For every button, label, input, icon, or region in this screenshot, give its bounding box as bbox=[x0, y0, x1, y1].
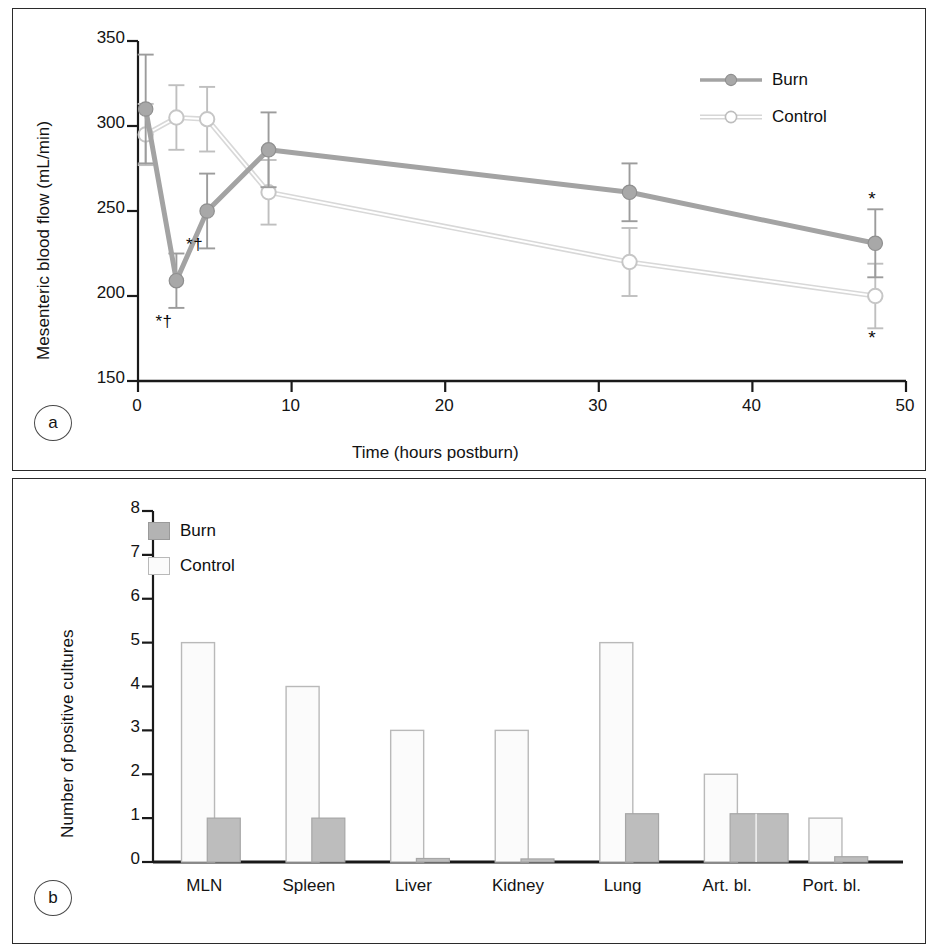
data-point-burn bbox=[261, 143, 275, 157]
panel-b-y-tick-1: 1 bbox=[98, 805, 140, 825]
data-point-control bbox=[868, 289, 882, 303]
figure-container: Mesenteric blood flow (mL/min) Time (hou… bbox=[0, 0, 938, 952]
panel-b-y-axis-title: Number of positive cultures bbox=[58, 629, 78, 838]
bar-burn-spleen bbox=[312, 818, 345, 862]
data-point-burn bbox=[200, 204, 214, 218]
data-point-burn bbox=[169, 274, 183, 288]
bar-burn-lung bbox=[626, 814, 659, 862]
legend-label-burn-bar: Burn bbox=[180, 521, 216, 541]
control-swatch-icon bbox=[148, 557, 170, 575]
burn-line-marker-icon bbox=[700, 72, 762, 88]
panel-a-y-tick-300: 300 bbox=[51, 113, 125, 133]
significance-marker-2: * bbox=[868, 188, 875, 210]
panel-a-x-tick-20: 20 bbox=[414, 396, 474, 416]
panel-b-y-tick-0: 0 bbox=[98, 849, 140, 869]
bar-burn-portbl bbox=[835, 857, 868, 862]
legend-item-control-line: Control bbox=[700, 107, 827, 127]
bar-control-portbl bbox=[809, 818, 842, 862]
bar-chart-svg bbox=[13, 479, 925, 943]
control-line-marker-icon bbox=[700, 109, 762, 125]
panel-a-y-axis-title: Mesenteric blood flow (mL/min) bbox=[34, 121, 54, 360]
panel-a-x-tick-50: 50 bbox=[875, 396, 935, 416]
data-point-burn bbox=[622, 185, 636, 199]
panel-a-x-tick-30: 30 bbox=[568, 396, 628, 416]
panel-b-y-tick-7: 7 bbox=[98, 542, 140, 562]
data-point-control bbox=[200, 112, 214, 126]
bar-burn-mln bbox=[207, 818, 240, 862]
legend-label-burn-line: Burn bbox=[772, 70, 808, 90]
data-point-control bbox=[622, 255, 636, 269]
panel-a-x-axis-title: Time (hours postburn) bbox=[352, 443, 519, 463]
legend-item-burn-line: Burn bbox=[700, 70, 808, 90]
panel-b-y-tick-5: 5 bbox=[98, 630, 140, 650]
panel-b-y-tick-2: 2 bbox=[98, 761, 140, 781]
data-point-burn bbox=[138, 102, 152, 116]
legend-label-control-bar: Control bbox=[180, 556, 235, 576]
bar-burn-artbl bbox=[730, 814, 788, 862]
panel-a-y-tick-250: 250 bbox=[51, 198, 125, 218]
panel-b-y-tick-6: 6 bbox=[98, 586, 140, 606]
panel-a-x-tick-0: 0 bbox=[107, 396, 167, 416]
panel-b-y-tick-3: 3 bbox=[98, 717, 140, 737]
significance-marker-3: * bbox=[868, 327, 875, 349]
bar-control-liver bbox=[391, 730, 424, 862]
legend-label-control-line: Control bbox=[772, 107, 827, 127]
significance-marker-0: *† bbox=[155, 312, 172, 332]
panel-a-y-tick-150: 150 bbox=[51, 368, 125, 388]
panel-a-y-tick-200: 200 bbox=[51, 283, 125, 303]
panel-b-bar-chart bbox=[12, 478, 926, 944]
panel-b-y-tick-8: 8 bbox=[98, 498, 140, 518]
panel-a-x-tick-40: 40 bbox=[721, 396, 781, 416]
significance-marker-1: *† bbox=[186, 235, 203, 255]
burn-swatch-icon bbox=[148, 522, 170, 540]
panel-b-label: b bbox=[34, 880, 72, 916]
bar-burn-kidney bbox=[521, 859, 554, 862]
panel-a-label: a bbox=[34, 405, 72, 441]
legend-item-control-bar: Control bbox=[148, 556, 235, 576]
panel-b-category-portbl: Port. bl. bbox=[762, 876, 902, 896]
panel-b-y-tick-4: 4 bbox=[98, 674, 140, 694]
legend-item-burn-bar: Burn bbox=[148, 521, 216, 541]
panel-a-y-tick-350: 350 bbox=[51, 28, 125, 48]
panel-a-x-tick-10: 10 bbox=[261, 396, 321, 416]
bar-control-kidney bbox=[495, 730, 528, 862]
data-point-burn bbox=[868, 236, 882, 250]
bar-burn-liver bbox=[416, 858, 449, 862]
data-point-control bbox=[169, 110, 183, 124]
